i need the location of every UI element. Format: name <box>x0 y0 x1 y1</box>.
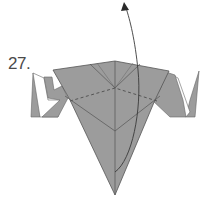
arrowhead-icon <box>121 2 129 11</box>
origami-diagram <box>0 0 206 211</box>
main-body <box>53 61 169 195</box>
